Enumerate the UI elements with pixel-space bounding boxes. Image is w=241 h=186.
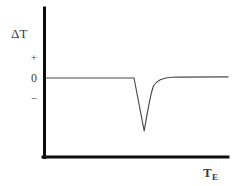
chart-figure: ΔT + 0 − TE — [0, 0, 241, 186]
data-curve-delta-t — [46, 77, 228, 131]
x-axis-title-subscript: E — [212, 172, 218, 182]
x-axis-title: TE — [203, 166, 218, 182]
y-axis-title: ΔT — [11, 27, 28, 40]
y-tick-label-negative: − — [19, 93, 37, 104]
y-tick-label-zero: 0 — [19, 72, 37, 84]
y-tick-label-positive: + — [19, 52, 37, 63]
x-axis-title-main: T — [203, 165, 212, 180]
